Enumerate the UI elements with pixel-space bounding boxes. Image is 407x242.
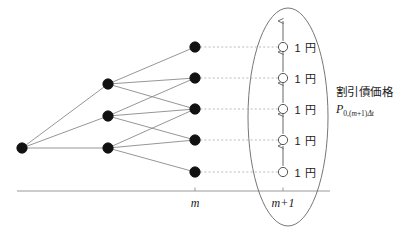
terminal-node-t1 bbox=[278, 73, 287, 82]
time-axis bbox=[17, 188, 330, 192]
discount-bond-price-annotation: 割引債価格 P0,(m+1)Δt bbox=[336, 83, 393, 118]
formula-subscript: 0,(m+1)Δt bbox=[343, 109, 374, 118]
lattice-edge-a2-b4 bbox=[108, 148, 195, 172]
lattice-node-a2 bbox=[103, 143, 113, 153]
payoff-label-t3: 1 円 bbox=[295, 132, 317, 148]
lattice-node-b3 bbox=[190, 135, 200, 145]
lattice-node-b1 bbox=[190, 73, 200, 83]
axis-label-m: m bbox=[191, 196, 200, 211]
lattice-edge-a0-b2 bbox=[108, 84, 195, 109]
payoff-label-t0: 1 円 bbox=[295, 39, 317, 55]
payoff-label-t1: 1 円 bbox=[295, 70, 317, 86]
dashed-connectors bbox=[200, 47, 278, 172]
lattice-diagram-canvas bbox=[0, 0, 407, 242]
terminal-node-t4 bbox=[278, 167, 287, 176]
lattice-node-b0 bbox=[190, 42, 200, 52]
lattice-node-b4 bbox=[190, 167, 200, 177]
lattice-node-a1 bbox=[103, 111, 113, 121]
formula-sub-mid: +1) bbox=[357, 109, 367, 118]
lattice-edge-r0-a1 bbox=[22, 116, 108, 148]
terminal-node-t3 bbox=[278, 135, 287, 144]
lattice-node-a0 bbox=[103, 79, 113, 89]
lattice-edge-a1-b3 bbox=[108, 116, 195, 140]
formula-sub-delta: Δt bbox=[367, 109, 374, 118]
terminal-node-t0 bbox=[278, 42, 287, 51]
lattice-nodes bbox=[17, 42, 200, 177]
payoff-label-t4: 1 円 bbox=[295, 164, 317, 180]
lattice-node-r0 bbox=[17, 143, 27, 153]
terminal-node-t2 bbox=[278, 104, 287, 113]
axis-label-m-plus-1: m+1 bbox=[272, 196, 295, 211]
lattice-node-b2 bbox=[190, 104, 200, 114]
payoff-label-t2: 1 円 bbox=[295, 101, 317, 117]
annotation-formula: P0,(m+1)Δt bbox=[336, 102, 393, 118]
lattice-edge-r0-a0 bbox=[22, 84, 108, 148]
annotation-caption: 割引債価格 bbox=[336, 83, 393, 99]
trinomial-lattice-figure: 1 円1 円1 円1 円1 円 mm+1 割引債価格 P0,(m+1)Δt bbox=[0, 0, 407, 242]
lattice-edge-a2-b3 bbox=[108, 140, 195, 148]
